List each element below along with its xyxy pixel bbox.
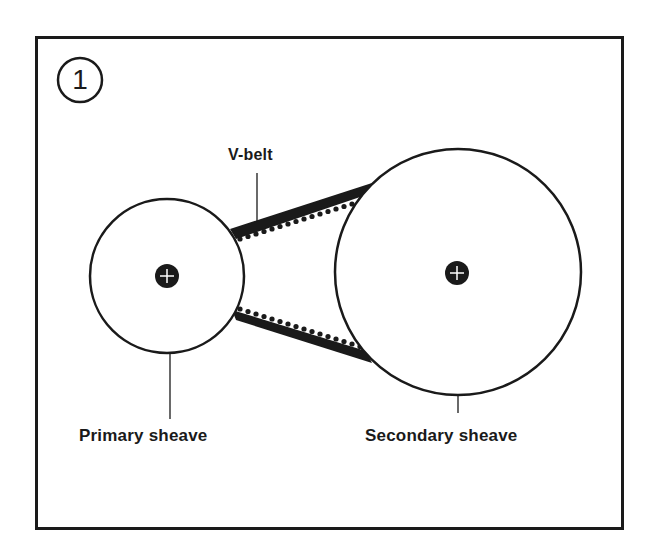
secondary-hub-icon <box>445 261 469 285</box>
figure-number: 1 <box>58 58 102 102</box>
primary-hub-icon <box>155 264 179 288</box>
primary-sheave-label: Primary sheave <box>79 426 208 446</box>
v-belt-label: V-belt <box>228 146 273 164</box>
secondary-sheave-label: Secondary sheave <box>365 426 518 446</box>
figure-diagram: 1 V-belt Primary sheave Secondary sheave <box>0 0 659 560</box>
